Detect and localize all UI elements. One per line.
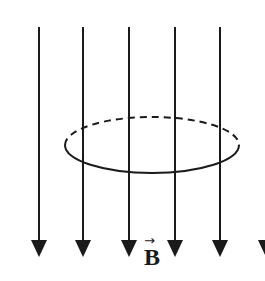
- arrowhead-down-icon: [258, 240, 265, 257]
- loop-front-half-solid: [65, 145, 239, 173]
- field-label-b: B: [144, 245, 160, 269]
- arrowhead-down-icon: [167, 240, 183, 257]
- magnetic-field-diagram: [0, 0, 265, 281]
- arrowhead-down-icon: [75, 240, 91, 257]
- arrowhead-down-icon: [121, 240, 137, 257]
- arrowhead-down-icon: [212, 240, 228, 257]
- current-loop: [65, 117, 239, 173]
- loop-back-half-dashed: [65, 117, 239, 145]
- arrowhead-down-icon: [31, 240, 47, 257]
